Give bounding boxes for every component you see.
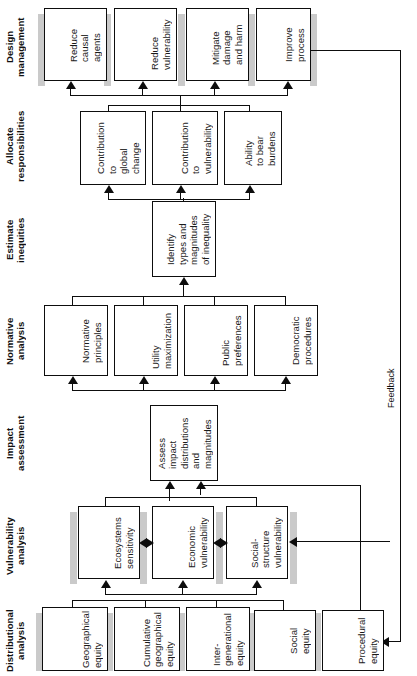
box-label: Contribution to global change: [81, 112, 145, 184]
row-label-allocate-responsibilities: Allocate responsibilities: [4, 100, 28, 192]
connector-tree-row4-top: [72, 296, 286, 297]
connector-tree-row2-top: [108, 105, 250, 106]
box-public-preferences[interactable]: Public preferences: [184, 305, 248, 376]
connector-stub: [105, 587, 106, 595]
arrow-left-icon: [289, 537, 297, 547]
arrow-up-icon: [210, 81, 220, 89]
box-label: Ability to bear burdens: [225, 112, 281, 184]
arrow-up-icon: [283, 81, 293, 89]
arrow-up-icon: [138, 81, 148, 89]
connector-stub: [256, 587, 257, 595]
box-normative-principles[interactable]: Normative principles: [44, 305, 108, 376]
box-shadow: [70, 512, 77, 584]
box-label: Identify types and magnitudes of inequal…: [153, 202, 215, 276]
box-improve-process[interactable]: Improve process: [256, 8, 311, 81]
connector-stub: [142, 88, 143, 96]
box-social-structure-vulnerability[interactable]: Social- structure vulnerability: [226, 506, 288, 579]
connector-feedback-top: [311, 50, 401, 51]
box-label: Ecosystems sensitivity: [79, 507, 139, 578]
connector-feedback-spine: [400, 50, 401, 642]
box-contribution-to-vulnerability[interactable]: Contribution to vulnerability: [152, 111, 218, 185]
box-reduce-vulnerability[interactable]: Reduce vulnerability: [114, 8, 177, 81]
arrow-up-icon: [101, 580, 111, 588]
connector-assess-right-stem: [200, 488, 201, 495]
box-label: Contribution to vulnerability: [153, 112, 217, 184]
box-economic-vulnerability[interactable]: Economic vulnerability: [152, 506, 214, 579]
row-label-normative-analysis: Normative analysis: [4, 300, 28, 382]
connector-trunk-row2: [180, 96, 181, 106]
box-assess-impact-distributions-and-magnitudes[interactable]: Assess impact distributions and magnitud…: [150, 405, 218, 481]
box-label: Public preferences: [185, 306, 247, 375]
connector-feedback-branch-b: [360, 541, 361, 613]
box-geographical-equity[interactable]: Geographical equity: [42, 607, 108, 671]
box-mitigate-damage-and-harm[interactable]: Mitigate damage and harm: [186, 8, 249, 81]
box-shadow: [178, 14, 185, 86]
connector-stub: [143, 383, 144, 391]
box-reduce-causal-agents[interactable]: Reduce causal agents: [44, 8, 107, 81]
box-label: Reduce vulnerability: [115, 9, 176, 80]
arrow-up-icon: [245, 185, 255, 193]
box-shadow: [290, 512, 297, 584]
box-label: Inter- generational equity: [187, 608, 249, 670]
arrow-up-icon: [176, 185, 186, 193]
row-label-estimate-inequities: Estimate inequities: [4, 200, 28, 280]
box-identify-types-and-magnitudes-of-inequality[interactable]: Identify types and magnitudes of inequal…: [152, 201, 216, 277]
connector-bus-row6: [105, 594, 257, 595]
connector-stub: [180, 192, 181, 200]
arrow-up-icon: [179, 277, 189, 285]
arrow-up-icon: [210, 376, 220, 384]
box-label: Social- structure vulnerability: [227, 507, 287, 578]
connector-stub: [108, 192, 109, 200]
connector-trunk-row3-down: [183, 284, 184, 296]
connector-feedback-branch-a-top: [200, 485, 361, 486]
box-shadow: [140, 512, 147, 584]
connector-stub: [182, 587, 183, 595]
box-utility-maximization[interactable]: Utility maximization: [114, 305, 178, 376]
connector-stub: [72, 383, 73, 391]
connector-tree-row6-top: [105, 497, 257, 498]
connector-stub: [214, 88, 215, 96]
box-social-equity[interactable]: Social equity: [254, 610, 316, 671]
box-label: Utility maximization: [115, 306, 177, 375]
feedback-label: Feedback: [386, 352, 396, 408]
double-arrow-icon: [140, 538, 153, 548]
connector-feedback-to-procedural: [388, 641, 401, 642]
box-label: Social equity: [255, 611, 315, 670]
arrow-up-icon: [104, 185, 114, 193]
box-label: Democratic procedures: [255, 306, 317, 375]
box-procedural-equity[interactable]: Procedural equity: [322, 610, 384, 671]
box-cumulative-geographical-equity[interactable]: Cumulative geographical equity: [114, 607, 180, 671]
box-shadow: [248, 14, 255, 86]
row-label-impact-assessment: Impact assessment: [4, 402, 28, 484]
connector-stub: [287, 88, 288, 96]
connector-bus-row1: [70, 95, 288, 96]
box-ecosystems-sensitivity[interactable]: Ecosystems sensitivity: [78, 506, 140, 579]
box-inter-generational-equity[interactable]: Inter- generational equity: [186, 607, 250, 671]
row-label-distributional-analysis: Distributional analysis: [4, 596, 28, 676]
box-label: Normative principles: [45, 306, 107, 375]
connector-bus-row4: [72, 390, 286, 391]
arrow-up-icon: [252, 580, 262, 588]
box-label: Reduce causal agents: [45, 9, 106, 80]
box-label: Procedural equity: [323, 611, 383, 670]
connector-stub: [249, 192, 250, 200]
double-arrow-icon: [214, 538, 227, 548]
connector-tree-row7-top: [72, 600, 284, 601]
arrow-up-icon: [66, 81, 76, 89]
connector-assess-left-stem: [169, 488, 170, 501]
arrow-up-icon: [196, 481, 206, 489]
box-ability-to-bear-burdens[interactable]: Ability to bear burdens: [224, 111, 282, 185]
connector-stub: [70, 88, 71, 96]
box-label: Improve process: [257, 9, 310, 80]
arrow-up-icon: [165, 481, 175, 489]
box-label: Economic vulnerability: [153, 507, 213, 578]
box-contribution-to-global-change[interactable]: Contribution to global change: [80, 111, 146, 185]
row-label-vulnerability-analysis: Vulnerability analysis: [4, 502, 28, 590]
box-label: Mitigate damage and harm: [187, 9, 248, 80]
connector-stub: [214, 383, 215, 391]
box-label: Cumulative geographical equity: [115, 608, 179, 670]
connector-stub: [285, 383, 286, 391]
connector-feedback-branch-a: [360, 485, 361, 541]
arrow-up-icon: [68, 376, 78, 384]
box-democratic-procedures[interactable]: Democratic procedures: [254, 305, 318, 376]
